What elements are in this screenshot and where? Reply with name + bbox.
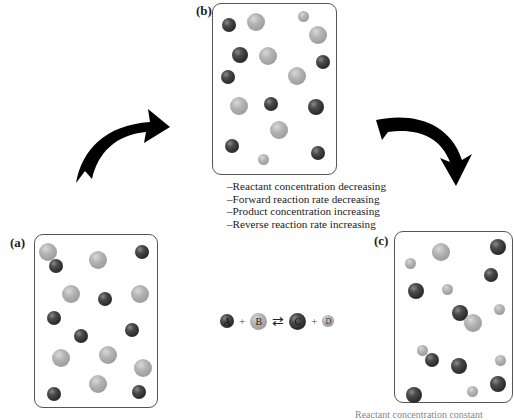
curved-arrow-down-right-icon xyxy=(372,110,482,190)
particle-dark xyxy=(125,323,139,337)
change-notes: –Reactant concentration decreasing –Forw… xyxy=(227,180,386,230)
panel-a-label: (a) xyxy=(10,235,25,251)
species-a: A xyxy=(220,314,234,328)
particle-dark xyxy=(264,97,278,111)
particle-dark xyxy=(484,268,498,282)
note-reverse-rate: –Reverse reaction rate increasing xyxy=(227,218,386,231)
particle-dark xyxy=(49,259,63,273)
note-product-concentration: –Product concentration increasing xyxy=(227,205,386,218)
panel-c-label: (c) xyxy=(374,233,388,249)
particle-light xyxy=(134,359,152,377)
particle-dark xyxy=(408,283,424,299)
particle-dark xyxy=(308,99,324,115)
particle-dark xyxy=(47,387,61,401)
particle-light xyxy=(62,285,80,303)
particle-dark xyxy=(98,292,112,306)
particle-dark xyxy=(135,245,149,259)
panel-c xyxy=(394,231,513,403)
particle-dark xyxy=(490,376,506,392)
curved-arrow-up-right-icon xyxy=(70,105,180,185)
particle-dark xyxy=(222,18,236,32)
panel-b xyxy=(212,3,337,175)
particle-dark xyxy=(132,385,146,399)
particle-light xyxy=(442,284,453,295)
particle-dark xyxy=(311,146,325,160)
particle-dark xyxy=(225,139,239,153)
note-reactant-concentration: –Reactant concentration decreasing xyxy=(227,180,386,193)
particle-light xyxy=(52,349,70,367)
panel-a xyxy=(34,234,158,408)
particle-dark xyxy=(316,55,330,69)
particle-light xyxy=(405,258,416,269)
species-b: B xyxy=(250,313,267,330)
particle-dark xyxy=(232,47,248,63)
particle-light xyxy=(432,243,450,261)
particle-light xyxy=(494,304,505,315)
plus-sign: + xyxy=(239,315,245,327)
particle-dark xyxy=(490,239,506,255)
particle-light xyxy=(464,314,482,332)
particle-light xyxy=(230,97,248,115)
particle-light xyxy=(247,13,265,31)
particle-light xyxy=(270,121,288,139)
particle-dark xyxy=(221,70,235,84)
particle-light xyxy=(259,47,277,65)
particle-light xyxy=(99,346,117,364)
particle-light xyxy=(258,154,269,165)
particle-dark xyxy=(74,329,88,343)
particle-light xyxy=(89,251,107,269)
bottom-caption-fragment: Reactant concentration constant xyxy=(355,409,483,420)
particle-light xyxy=(131,285,149,303)
particle-light xyxy=(288,67,306,85)
particle-dark xyxy=(425,353,439,367)
reaction-equation: A + B ⇄ C + D xyxy=(220,310,334,332)
particle-dark xyxy=(406,387,422,403)
particle-light xyxy=(495,355,506,366)
species-c: C xyxy=(289,313,306,330)
particle-light xyxy=(309,26,327,44)
particle-light xyxy=(298,11,309,22)
particle-dark xyxy=(451,358,467,374)
panel-b-label: (b) xyxy=(196,3,212,19)
particle-light xyxy=(467,386,478,397)
particle-dark xyxy=(47,311,61,325)
equilibrium-arrow-icon: ⇄ xyxy=(272,313,284,330)
note-forward-rate: –Forward reaction rate decreasing xyxy=(227,193,386,206)
particle-light xyxy=(89,375,107,393)
species-d: D xyxy=(322,315,334,327)
plus-sign: + xyxy=(311,315,317,327)
